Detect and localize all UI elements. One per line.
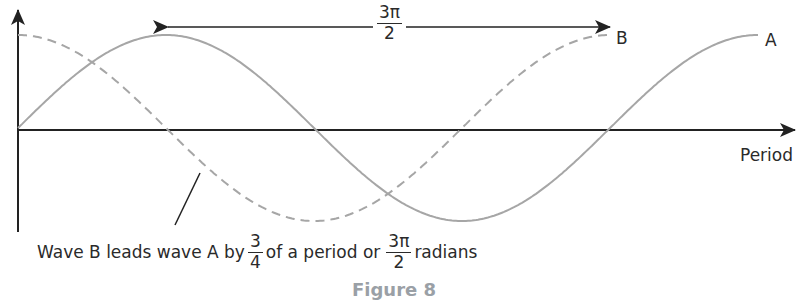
wave-b-label: B	[616, 30, 628, 47]
caption-fraction-3-4: 3 4	[248, 233, 263, 272]
top-phase-numerator: 3π	[377, 4, 402, 24]
fraction-numerator: 3	[248, 233, 263, 253]
leader-line	[175, 173, 200, 225]
caption-part-1: Wave B leads wave A by	[37, 242, 245, 262]
top-phase-label: 3π 2	[373, 4, 406, 43]
top-phase-denominator: 2	[384, 24, 395, 43]
fraction-denominator: 4	[250, 253, 261, 272]
figure-title: Figure 8	[352, 279, 436, 300]
wave-a-label: A	[765, 32, 777, 49]
caption-part-2: of a period or	[266, 242, 381, 262]
caption-fraction-3pi-2: 3π 2	[386, 233, 411, 272]
fraction-numerator: 3π	[386, 233, 411, 253]
fraction-denominator: 2	[393, 253, 404, 272]
caption-part-3: radians	[414, 242, 477, 262]
caption: Wave B leads wave A by 3 4 of a period o…	[37, 233, 477, 272]
x-axis-label: Period	[740, 147, 793, 164]
